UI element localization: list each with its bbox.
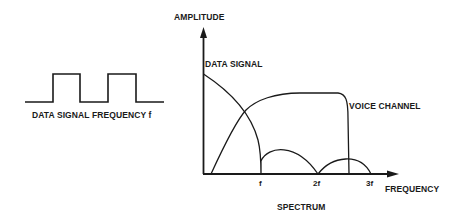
spectrum-title: SPECTRUM <box>277 202 326 212</box>
voice-channel-curve <box>211 93 349 174</box>
tick-f: f <box>259 179 262 188</box>
frequency-label: FREQUENCY <box>385 184 439 194</box>
square-wave <box>25 74 164 102</box>
tick-2f: 2f <box>313 179 320 188</box>
voice-channel-label: VOICE CHANNEL <box>349 101 421 111</box>
data-signal-curve <box>204 74 372 174</box>
data-signal-label: DATA SIGNAL <box>205 59 263 69</box>
amplitude-label: AMPLITUDE <box>174 12 225 22</box>
x-axis-arrow-icon <box>387 171 399 178</box>
y-axis-arrow-icon <box>200 27 207 38</box>
diagram-canvas: DATA SIGNAL FREQUENCY f AMPLITUDE DATA S… <box>0 0 467 221</box>
square-wave-caption: DATA SIGNAL FREQUENCY f <box>32 110 151 120</box>
tick-3f: 3f <box>366 179 373 188</box>
